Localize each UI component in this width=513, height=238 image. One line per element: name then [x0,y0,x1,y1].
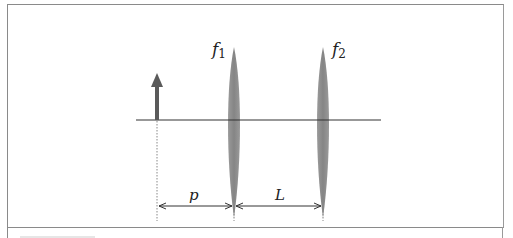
lens2-focal-label: f2 [332,39,346,61]
lens2-shape [317,47,329,218]
lens1-focal-label: f1 [212,39,226,61]
object-distance-label: p [189,186,199,204]
optics-diagram [0,0,513,238]
lens1-subscript: 1 [218,47,226,61]
lens2-subscript: 2 [338,47,346,61]
lens-separation-label: L [275,186,285,204]
object-arrow-shaft [155,85,159,120]
lens1-shape [228,47,240,218]
object-arrow-head [151,73,163,87]
